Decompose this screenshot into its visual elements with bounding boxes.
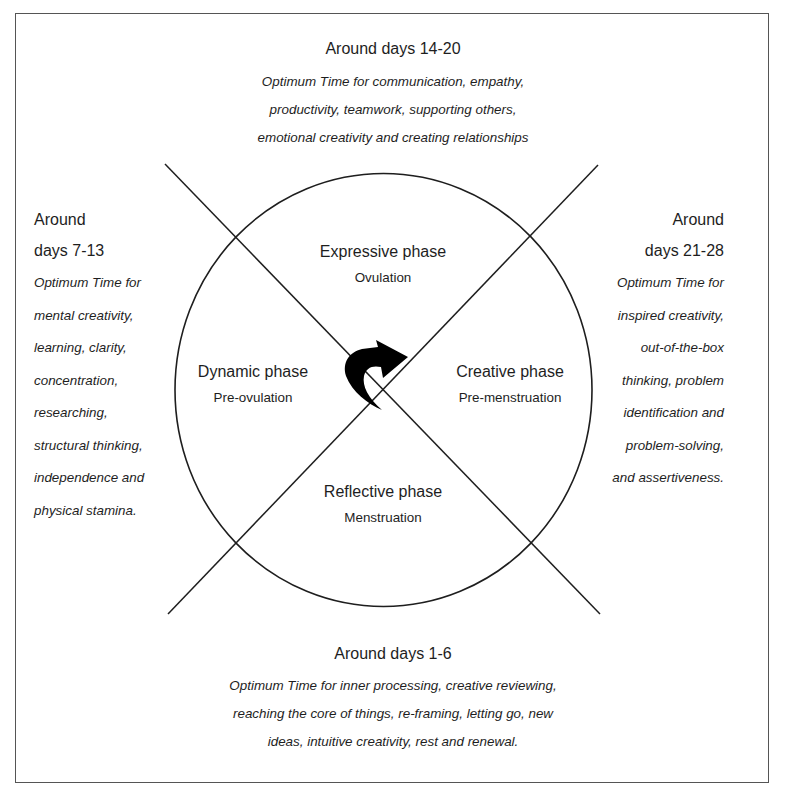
description-line: mental creativity, (34, 308, 184, 341)
description-line: Optimum Time for (544, 275, 724, 308)
phase-reflective: Reflective phase Menstruation (283, 483, 483, 525)
phase-dynamic: Dynamic phase Pre-ovulation (153, 363, 353, 405)
clockwise-curved-arrow-icon (345, 340, 408, 410)
description-line: reaching the core of things, re-framing,… (150, 706, 636, 734)
section-heading-line: days 7-13 (34, 242, 184, 275)
description-line: Optimum Time for inner processing, creat… (150, 678, 636, 706)
description-line: physical stamina. (34, 503, 184, 536)
phase-name: Creative phase (410, 363, 610, 390)
description-line: ideas, intuitive creativity, rest and re… (150, 734, 636, 762)
section-days-1-6: Around days 1-6 Optimum Time for inner p… (150, 645, 636, 762)
phase-name: Reflective phase (283, 483, 483, 510)
description-line: independence and (34, 470, 184, 503)
phase-subtitle: Pre-ovulation (153, 390, 353, 405)
description-line: structural thinking, (34, 438, 184, 471)
section-days-21-28: Around days 21-28 Optimum Time for inspi… (544, 211, 724, 503)
description-line: Optimum Time for communication, empathy, (150, 74, 636, 102)
section-heading-line: days 21-28 (544, 242, 724, 275)
description-line: and assertiveness. (544, 470, 724, 503)
description-line: identification and (544, 405, 724, 438)
phase-subtitle: Menstruation (283, 510, 483, 525)
section-heading: Around days 14-20 (150, 40, 636, 57)
phase-creative: Creative phase Pre-menstruation (410, 363, 610, 405)
phase-name: Expressive phase (283, 243, 483, 270)
phase-subtitle: Pre-menstruation (410, 390, 610, 405)
section-heading: Around days 1-6 (150, 645, 636, 662)
description-line: productivity, teamwork, supporting other… (150, 102, 636, 130)
section-heading-line: Around (544, 211, 724, 242)
phase-name: Dynamic phase (153, 363, 353, 390)
section-days-14-20: Around days 14-20 Optimum Time for commu… (150, 40, 636, 158)
description-line: emotional creativity and creating relati… (150, 130, 636, 158)
description-line: problem-solving, (544, 438, 724, 471)
description-line: Optimum Time for (34, 275, 184, 308)
description-line: researching, (34, 405, 184, 438)
description-line: inspired creativity, (544, 308, 724, 341)
phase-subtitle: Ovulation (283, 270, 483, 285)
section-heading-line: Around (34, 211, 184, 242)
phase-expressive: Expressive phase Ovulation (283, 243, 483, 285)
